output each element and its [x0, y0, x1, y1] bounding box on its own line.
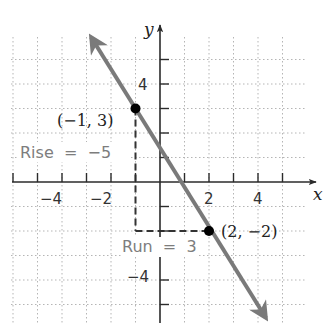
- point-neg1-3: [131, 104, 141, 114]
- run-label: Run = 3: [122, 237, 197, 256]
- tick-label-x-2: 2: [204, 190, 214, 208]
- y-axis-label: y: [143, 19, 154, 39]
- graph-line: [91, 37, 266, 318]
- point-label-neg1-3: (−1, 3): [57, 111, 113, 130]
- tick-label-x-4: 4: [253, 190, 263, 208]
- grid: [11, 37, 305, 323]
- rise-label: Rise = −5: [20, 143, 111, 162]
- tick-label-x-neg2: −2: [90, 190, 112, 208]
- tick-label-y-4: 4: [138, 76, 148, 94]
- tick-label-x-neg4: −4: [40, 190, 62, 208]
- point-label-2-neg2: (2, −2): [221, 222, 277, 241]
- point-2-neg2: [204, 226, 214, 236]
- x-axis-label: x: [313, 184, 323, 204]
- tick-label-y-neg4: −4: [127, 268, 149, 286]
- coordinate-plane: y x −4 −2 2 4 4 −4 (−1, 3) (2, −2) Rise …: [0, 0, 325, 323]
